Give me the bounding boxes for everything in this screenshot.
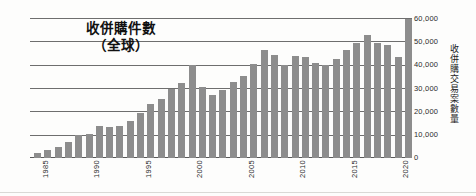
bar-1988	[65, 142, 72, 158]
x-tick-1990: 1990	[92, 160, 101, 178]
x-tick-1985: 1985	[41, 160, 50, 178]
bar-1999	[178, 83, 185, 158]
bar-2010	[292, 56, 299, 158]
bar-2020	[395, 57, 402, 158]
bar-2000	[189, 65, 196, 158]
bar-2015	[343, 50, 350, 158]
y-axis-label: 收併購交易案數量	[444, 44, 458, 124]
chart-title: 收併購件數 （全球）	[56, 20, 186, 55]
bar-1991	[96, 126, 103, 158]
x-tick-1995: 1995	[144, 160, 153, 178]
y-tick-50000: 50,000	[414, 37, 438, 46]
bar-2006	[250, 64, 257, 158]
y-tick-40000: 40,000	[414, 60, 438, 69]
bar-2008	[271, 55, 278, 158]
bar-1995	[137, 113, 144, 158]
bar-2019	[384, 45, 391, 158]
bar-2021	[405, 19, 412, 158]
footer-rule	[0, 192, 476, 193]
bar-2018	[374, 43, 381, 158]
bar-1993	[116, 126, 123, 158]
bar-2001	[199, 87, 206, 158]
y-tick-30000: 30,000	[414, 83, 438, 92]
x-tick-2010: 2010	[298, 160, 307, 178]
bar-2013	[322, 65, 329, 158]
x-axis: 19851990199520002005201020152020	[30, 160, 412, 194]
y-tick-60000: 60,000	[414, 14, 438, 23]
bar-2005	[240, 76, 247, 158]
x-tick-2020: 2020	[401, 160, 410, 178]
bar-1998	[168, 89, 175, 158]
x-tick-2015: 2015	[350, 160, 359, 178]
bar-1996	[147, 104, 154, 158]
bar-2012	[312, 63, 319, 158]
bar-1989	[75, 135, 82, 158]
bar-1990	[86, 134, 93, 158]
bar-1992	[106, 127, 113, 158]
x-tick-2005: 2005	[247, 160, 256, 178]
y-tick-20000: 20,000	[414, 106, 438, 115]
bar-2002	[209, 95, 216, 158]
bar-2011	[302, 57, 309, 158]
bar-1994	[127, 121, 134, 158]
chart-title-line2: （全球）	[56, 37, 186, 54]
bar-1985	[34, 153, 41, 158]
chart-title-line1: 收併購件數	[86, 21, 156, 36]
bar-1987	[55, 147, 62, 158]
bar-2003	[219, 90, 226, 158]
chart-figure: 收併購件數 （全球） 60,00050,00040,00030,00020,00…	[0, 0, 476, 196]
bar-1997	[158, 99, 165, 158]
bar-2016	[353, 43, 360, 158]
x-tick-2000: 2000	[195, 160, 204, 178]
bar-2014	[333, 59, 340, 158]
bar-1986	[44, 150, 51, 158]
bar-2004	[230, 82, 237, 158]
y-tick-10000: 10,000	[414, 129, 438, 138]
y-tick-0: 0	[414, 153, 418, 162]
bar-2007	[261, 50, 268, 158]
bar-2017	[364, 35, 371, 158]
bar-2009	[281, 65, 288, 158]
